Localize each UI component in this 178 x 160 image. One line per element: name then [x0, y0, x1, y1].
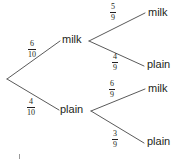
fraction-denominator: 10 — [27, 108, 35, 117]
fraction-denominator: 9 — [112, 63, 118, 72]
fraction-denominator: 9 — [112, 140, 118, 149]
probability-plain-to-milk: 6 9 — [109, 80, 115, 99]
fraction-numerator: 3 — [112, 130, 118, 140]
fraction-denominator: 10 — [28, 50, 36, 59]
probability-tree-diagram: milk plain milk plain milk plain 6 10 4 … — [0, 0, 178, 160]
node-label-plain-level1: plain — [60, 103, 83, 115]
fraction-numerator: 5 — [110, 3, 116, 13]
node-label-plain-plain: plain — [147, 135, 170, 147]
fraction-numerator: 6 — [28, 40, 36, 50]
fraction-numerator: 6 — [109, 80, 115, 90]
probability-plain-to-plain: 3 9 — [112, 130, 118, 149]
branch-milk-to-milk — [89, 13, 145, 41]
node-label-plain-milk: milk — [148, 82, 168, 94]
probability-root-to-milk: 6 10 — [28, 40, 36, 59]
fraction-denominator: 9 — [109, 90, 115, 99]
stray-mark — [19, 154, 20, 159]
fraction-denominator: 9 — [110, 13, 116, 22]
node-label-milk-milk: milk — [148, 6, 168, 18]
branch-plain-to-milk — [91, 89, 145, 111]
fraction-numerator: 4 — [112, 53, 118, 63]
node-label-milk-plain: plain — [147, 58, 170, 70]
probability-milk-to-milk: 5 9 — [110, 3, 116, 22]
fraction-numerator: 4 — [27, 98, 35, 108]
probability-milk-to-plain: 4 9 — [112, 53, 118, 72]
node-label-milk-level1: milk — [62, 33, 82, 45]
probability-root-to-plain: 4 10 — [27, 98, 35, 117]
